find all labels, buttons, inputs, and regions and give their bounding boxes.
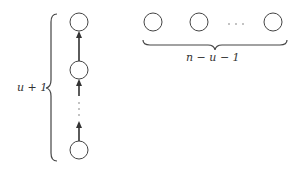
column-node-bottom [70, 141, 88, 159]
row-node-1 [144, 13, 162, 31]
horizontal-ellipsis-icon [228, 23, 230, 25]
column-node-top [70, 13, 88, 31]
diagram-canvas: u + 1 n − u − 1 [0, 0, 306, 173]
vertical-ellipsis-icon [78, 102, 80, 104]
row-count-label: n − u − 1 [186, 51, 240, 64]
left-brace [46, 14, 57, 161]
row-node-2 [190, 13, 208, 31]
column-node-middle [70, 61, 88, 79]
row-node-last [264, 13, 282, 31]
row-brace [143, 40, 287, 50]
column-count-label: u + 1 [17, 81, 47, 94]
